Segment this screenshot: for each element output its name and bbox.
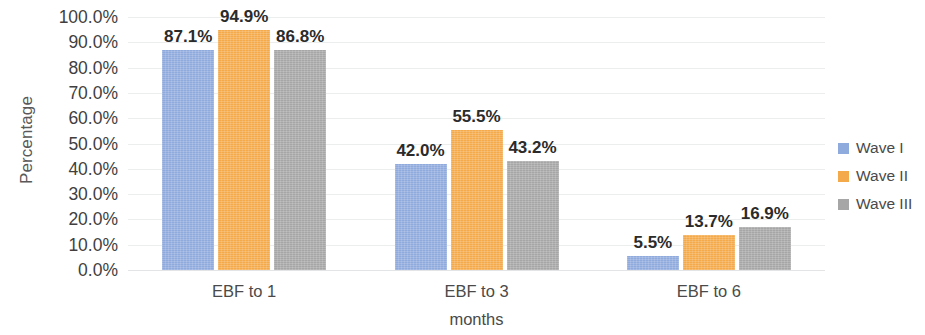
y-axis-tick-label: 40.0% [26,158,118,179]
bar-value-label: 55.5% [452,107,500,127]
bar-fill [451,130,503,270]
legend-item[interactable]: Wave III [838,190,925,218]
plot-area: 87.1%94.9%86.8%42.0%55.5%43.2%5.5%13.7%1… [128,17,825,270]
y-axis-tick-label: 70.0% [26,82,118,103]
bar[interactable]: 43.2% [507,161,559,270]
y-axis-tick-label: 0.0% [26,260,118,281]
y-axis-tick-label: 100.0% [26,7,118,28]
y-axis-tick-label: 20.0% [26,209,118,230]
bar[interactable]: 87.1% [162,50,214,270]
bar-fill [218,30,270,270]
x-axis-tick-label: EBF to 1 [149,282,339,301]
bar-fill [739,227,791,270]
bar[interactable]: 13.7% [683,235,735,270]
bar-fill [507,161,559,270]
bar-value-label: 16.9% [741,204,789,224]
bar[interactable]: 86.8% [274,50,326,270]
y-axis-tick-label: 10.0% [26,234,118,255]
bar-fill [395,164,447,270]
y-axis-tick-label: 80.0% [26,57,118,78]
bar-fill [627,256,679,270]
bar[interactable]: 55.5% [451,130,503,270]
bar-fill [683,235,735,270]
legend-label: Wave I [856,139,904,157]
x-axis-title: months [128,310,825,329]
bar[interactable]: 5.5% [627,256,679,270]
y-axis-tick-labels: 100.0%90.0%80.0%70.0%60.0%50.0%40.0%30.0… [26,0,118,335]
y-axis-tick-label: 60.0% [26,108,118,129]
legend-swatch-icon [838,171,849,182]
bar-group: 42.0%55.5%43.2% [395,17,559,270]
y-axis-tick-label: 30.0% [26,184,118,205]
bar-value-label: 94.9% [220,7,268,27]
y-axis-tick-label: 50.0% [26,133,118,154]
legend-label: Wave II [856,167,908,185]
bar-fill [162,50,214,270]
chart-legend: Wave IWave IIWave III [838,134,925,218]
bar-value-label: 42.0% [396,141,444,161]
x-axis-tick-label: EBF to 6 [614,282,804,301]
bar-chart: Percentage 100.0%90.0%80.0%70.0%60.0%50.… [0,0,925,335]
gridline [128,270,825,271]
x-axis-tick-label: EBF to 3 [382,282,572,301]
legend-swatch-icon [838,143,849,154]
legend-item[interactable]: Wave I [838,134,925,162]
bar-group: 5.5%13.7%16.9% [627,17,791,270]
legend-label: Wave III [856,195,912,213]
bar[interactable]: 94.9% [218,30,270,270]
bar-value-label: 87.1% [164,27,212,47]
bar-value-label: 86.8% [276,27,324,47]
legend-swatch-icon [838,199,849,210]
bar-group: 87.1%94.9%86.8% [162,17,326,270]
bar[interactable]: 16.9% [739,227,791,270]
bar[interactable]: 42.0% [395,164,447,270]
legend-item[interactable]: Wave II [838,162,925,190]
bar-fill [274,50,326,270]
bar-value-label: 13.7% [685,212,733,232]
bar-value-label: 43.2% [508,138,556,158]
y-axis-tick-label: 90.0% [26,32,118,53]
x-axis-tick-labels: EBF to 1EBF to 3EBF to 6 [128,282,825,308]
bar-value-label: 5.5% [633,233,672,253]
